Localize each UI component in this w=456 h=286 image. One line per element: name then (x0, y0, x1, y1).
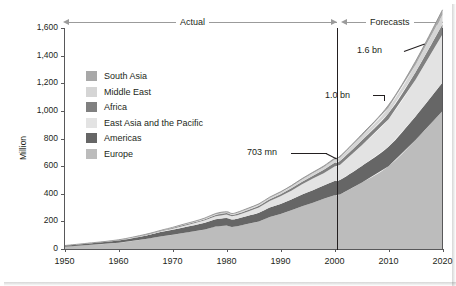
annotation-europe-2020-leader-v (384, 95, 385, 101)
x-axis-tick (389, 249, 390, 252)
legend-item: Europe (86, 147, 203, 161)
y-axis-title: Million (18, 136, 28, 160)
legend-label: East Asia and the Pacific (104, 118, 203, 128)
x-axis-tick-label: 1960 (97, 256, 141, 266)
y-axis-line (64, 28, 65, 250)
y-axis-tick (61, 56, 64, 57)
x-axis-tick-label: 2010 (367, 256, 411, 266)
legend-swatch-icon (86, 71, 97, 81)
x-axis-tick-label: 1970 (151, 256, 195, 266)
y-axis-tick (61, 111, 64, 112)
legend-item: Americas (86, 131, 203, 145)
plot-right-border (442, 28, 443, 250)
x-axis-tick (335, 249, 336, 252)
y-axis-tick-label: 600 (20, 160, 58, 170)
x-axis-tick-label: 2020 (421, 256, 456, 266)
legend-swatch-icon (86, 118, 97, 128)
x-axis-tick-label: 1980 (205, 256, 249, 266)
forecast-divider-line (337, 28, 338, 250)
y-axis-tick-label: 1,600 (20, 22, 58, 32)
legend-item: Africa (86, 100, 203, 114)
stacked-area-plot (0, 0, 456, 286)
x-axis-tick (281, 249, 282, 252)
y-axis-tick (61, 194, 64, 195)
y-axis-tick-label: 0 (20, 243, 58, 253)
x-axis-line (64, 249, 443, 250)
x-axis-tick-label: 1990 (259, 256, 303, 266)
annotation-total-2020: 1.6 bn (357, 45, 382, 55)
legend-label: Americas (104, 133, 142, 143)
y-axis-tick (61, 83, 64, 84)
legend-item: South Asia (86, 69, 203, 83)
legend-swatch-icon (86, 133, 97, 143)
y-axis-tick-label: 1,200 (20, 77, 58, 87)
y-axis-tick-label: 1,000 (20, 105, 58, 115)
legend-item: Middle East (86, 85, 203, 99)
legend-item: East Asia and the Pacific (86, 116, 203, 130)
annotation-europe-2020-leader-h (373, 95, 384, 96)
legend-swatch-icon (86, 87, 97, 97)
annotation-total-2001: 703 mn (247, 147, 277, 157)
x-axis-tick (443, 249, 444, 252)
legend-label: Middle East (104, 87, 151, 97)
legend-label: South Asia (104, 71, 147, 81)
legend-label: Africa (104, 102, 127, 112)
annotation-europe-2020: 1.0 bn (325, 90, 350, 100)
page-shadow-right (452, 4, 456, 286)
y-axis-tick (61, 166, 64, 167)
chart-figure: Actual Forecasts 1,6001,4001,2001,000800… (0, 0, 456, 286)
legend: South AsiaMiddle EastAfricaEast Asia and… (86, 69, 203, 162)
x-axis-tick-label: 1950 (43, 256, 87, 266)
y-axis-tick-label: 400 (20, 188, 58, 198)
x-axis-tick-label: 2000 (313, 256, 357, 266)
x-axis-tick (119, 249, 120, 252)
x-axis-tick (173, 249, 174, 252)
legend-swatch-icon (86, 149, 97, 159)
y-axis-tick-label: 1,400 (20, 50, 58, 60)
legend-label: Europe (104, 149, 133, 159)
y-axis-tick-label: 200 (20, 215, 58, 225)
page-shadow-bottom (4, 282, 456, 286)
annotation-total-2001-leader-h (291, 153, 327, 154)
y-axis-tick (61, 221, 64, 222)
y-axis-tick (61, 28, 64, 29)
x-axis-tick (227, 249, 228, 252)
x-axis-tick (65, 249, 66, 252)
y-axis-tick (61, 139, 64, 140)
legend-swatch-icon (86, 102, 97, 112)
